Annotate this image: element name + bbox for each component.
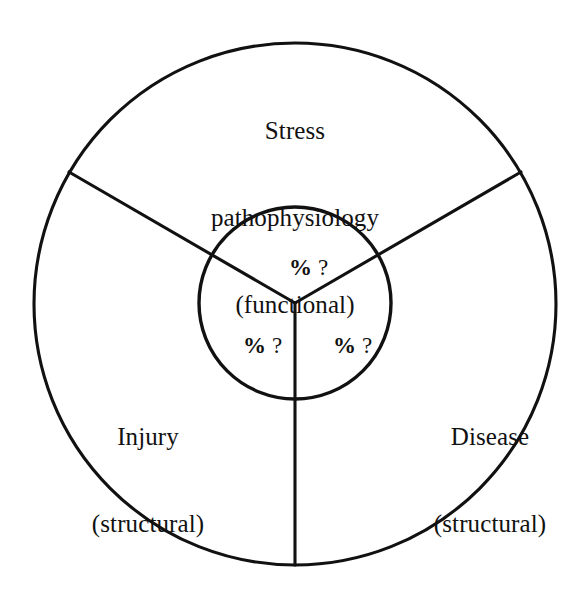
injury-label-line-2: (structural) — [48, 509, 248, 538]
question-mark-top: ? — [318, 255, 328, 280]
disease-label-line-2: (structural) — [390, 509, 581, 538]
inner-segment-label-left: % ? — [208, 306, 294, 386]
diagram-canvas: Stress pathophysiology (functional) Inju… — [0, 0, 581, 599]
outer-segment-label-injury: Injury (structural) — [48, 364, 248, 596]
percent-symbol-top: % — [289, 255, 312, 280]
percent-symbol-right: % — [333, 333, 356, 358]
outer-segment-label-disease: Disease (structural) — [390, 364, 581, 596]
outer-segment-label-stress: Stress pathophysiology (functional) — [150, 58, 440, 377]
percent-symbol-left: % — [243, 333, 266, 358]
stress-label-line-1: Stress — [150, 116, 440, 145]
inner-segment-label-top: % ? — [254, 228, 340, 308]
question-mark-right: ? — [362, 333, 372, 358]
question-mark-left: ? — [272, 333, 282, 358]
injury-label-line-1: Injury — [48, 422, 248, 451]
inner-segment-label-right: % ? — [298, 306, 384, 386]
disease-label-line-1: Disease — [390, 422, 581, 451]
